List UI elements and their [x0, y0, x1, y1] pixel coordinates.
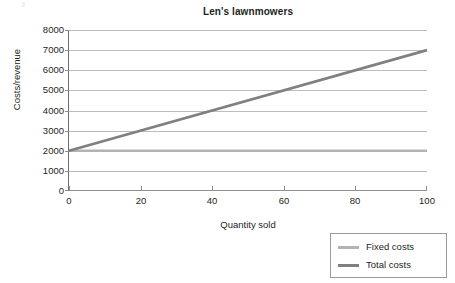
x-axis-tick-label: 20 [136, 196, 147, 206]
y-axis-tick-label: 0 [22, 186, 64, 196]
scan-artifact [22, 2, 25, 7]
chart-legend: Fixed costs Total costs [330, 233, 447, 278]
x-axis-tick-label: 40 [207, 196, 218, 206]
x-axis-tick-label: 100 [419, 196, 435, 206]
x-axis-tick-label: 0 [66, 196, 71, 206]
x-axis-tick-labels: 020406080100 [69, 196, 427, 210]
y-axis-tick-label: 8000 [22, 25, 64, 35]
y-axis-tick-label: 5000 [22, 85, 64, 95]
y-axis-tick-label: 7000 [22, 45, 64, 55]
x-axis-tick-label: 80 [350, 196, 361, 206]
legend-item-fixed-costs: Fixed costs [338, 239, 414, 255]
x-axis-tick-label: 60 [279, 196, 290, 206]
legend-item-total-costs: Total costs [338, 257, 411, 273]
y-axis-tick-label: 4000 [22, 106, 64, 116]
legend-swatch-icon [338, 246, 359, 249]
y-axis-tick-label: 1000 [22, 166, 64, 176]
y-axis-tick-labels: 010002000300040005000600070008000 [20, 30, 64, 191]
series-lines [69, 30, 427, 191]
legend-label: Fixed costs [366, 242, 414, 252]
x-axis-title: Quantity sold [69, 219, 427, 230]
y-axis-tick-label: 6000 [22, 65, 64, 75]
series-line-total-costs [69, 50, 427, 151]
plot-area [69, 30, 427, 191]
legend-swatch-icon [338, 264, 359, 267]
legend-label: Total costs [366, 260, 411, 270]
y-axis-tick-label: 3000 [22, 126, 64, 136]
chart-figure: Len's lawnmowers Costs/revenue 010002000… [0, 0, 455, 283]
y-axis-tick-label: 2000 [22, 146, 64, 156]
chart-title: Len's lawnmowers [69, 6, 427, 17]
